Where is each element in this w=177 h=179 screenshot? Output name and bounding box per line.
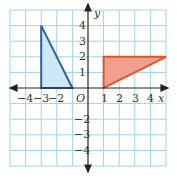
- y-tick-label: 2: [79, 50, 86, 63]
- y-axis-label: y: [93, 7, 101, 20]
- y-tick-label: 1: [79, 66, 86, 79]
- x-tick-label: 4: [147, 92, 154, 105]
- x-axis-label: x: [158, 92, 165, 105]
- y-tick-label: −4: [74, 144, 90, 157]
- x-tick-label: 3: [132, 92, 139, 105]
- x-axis-left-arrow-icon: [10, 85, 17, 91]
- x-tick-label: −2: [48, 92, 64, 105]
- x-tick-label: −3: [33, 92, 49, 105]
- coordinate-plane: y x O −4 −3 −2 1 2 3 4 4 3 2 1 −2 −3 −4: [0, 0, 177, 179]
- x-tick-label: 1: [101, 92, 108, 105]
- y-axis-up-arrow-icon: [85, 4, 91, 11]
- x-tick-label: 2: [116, 92, 123, 105]
- x-axis-right-arrow-icon: [161, 85, 168, 91]
- origin-label: O: [76, 92, 85, 105]
- x-tick-label: −4: [17, 92, 33, 105]
- y-tick-label: −2: [74, 113, 90, 126]
- y-tick-label: 3: [79, 35, 86, 48]
- y-tick-label: −3: [74, 128, 90, 141]
- y-axis-down-arrow-icon: [85, 165, 91, 172]
- y-tick-label: 4: [79, 19, 86, 32]
